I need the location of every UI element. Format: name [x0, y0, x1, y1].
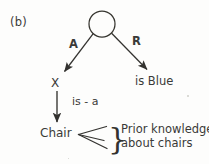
- edge-label-r: R: [132, 36, 141, 48]
- node-label-is-blue: is Blue: [135, 76, 173, 88]
- annotation-text-line-1: Prior knowledge: [121, 124, 209, 136]
- fan-marker-icon: [79, 127, 108, 149]
- annotation-text-line-2: about chairs: [121, 138, 192, 150]
- figure-canvas: (b) A R X is Blue is - a Chair }: [0, 0, 209, 164]
- edge-label-a: A: [69, 39, 78, 51]
- edge-root-to-is-blue: [112, 33, 147, 69]
- edge-label-is-a: is - a: [72, 96, 99, 107]
- curly-brace-icon: }: [108, 122, 122, 156]
- root-node-circle: [89, 11, 115, 37]
- node-label-chair: Chair: [40, 127, 72, 139]
- node-label-x: X: [51, 77, 59, 89]
- scan-speck-artifact: [187, 95, 189, 97]
- scan-speck-artifact-secondary: [68, 158, 69, 159]
